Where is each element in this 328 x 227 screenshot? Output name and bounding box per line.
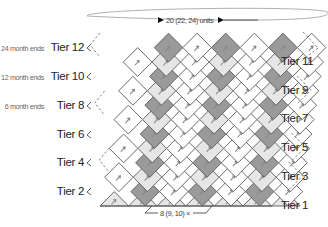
tier-label: Tier 2 — [57, 185, 84, 197]
left-dashed-edge — [99, 148, 109, 172]
tier-note: 24 month ends — [1, 44, 45, 53]
left-tier-tier-4: Tier 4 — [57, 148, 109, 172]
height-annotation: 8 (9, 10) × — [145, 206, 212, 218]
tier-pointer-icon — [87, 102, 91, 109]
height-leader-right — [193, 206, 212, 213]
height-label: 8 (9, 10) — [160, 209, 185, 218]
arrow-right-icon — [158, 17, 164, 23]
left-tier-tier-8: Tier 86 month ends — [5, 91, 105, 115]
left-dashed-edge — [90, 33, 100, 57]
tier-note: 6 month ends — [5, 102, 45, 111]
left-dashed-edge — [95, 91, 105, 115]
right-tier-tier-9: Tier 9 — [281, 84, 308, 96]
right-tier-tier-7: Tier 7 — [281, 112, 308, 124]
tier-pointer-icon — [87, 188, 91, 195]
width-label: 20 (22, 24) units — [166, 16, 214, 25]
left-tier-tier-2: Tier 2 — [57, 185, 91, 197]
tier-label: Tier 12 — [51, 41, 84, 53]
tier-pointer-icon — [87, 131, 91, 138]
right-tier-tier-1: Tier 1 — [281, 199, 308, 211]
tier-note: 12 month ends — [1, 73, 45, 82]
tier-label: Tier 4 — [57, 156, 85, 168]
tier-pointer-icon — [87, 73, 91, 80]
tier-label: Tier 10 — [51, 70, 84, 82]
tier-label: Tier 8 — [57, 99, 84, 111]
width-annotation: 20 (22, 24) units — [87, 8, 328, 25]
right-tier-tier-3: Tier 3 — [281, 170, 308, 182]
left-tier-labels: Tier 1224 month endsTier 1012 month ends… — [1, 33, 109, 197]
tier-label: Tier 6 — [57, 128, 84, 140]
left-tier-tier-12: Tier 1224 month ends — [1, 33, 100, 57]
tier-pointer-icon — [87, 159, 91, 166]
right-tier-tier-5: Tier 5 — [281, 141, 308, 153]
height-leader-left — [145, 206, 158, 213]
diamond-tile — [100, 192, 129, 206]
right-tier-tier-11: Tier 11 — [281, 55, 313, 67]
left-tier-tier-10: Tier 1012 month ends — [1, 70, 91, 82]
arrow-left-icon — [218, 17, 224, 23]
multiply-x-icon: × — [186, 209, 190, 218]
left-tier-tier-6: Tier 6 — [57, 128, 91, 140]
tier-diagram: 20 (22, 24) units 8 (9, 10) × Tier 1224 … — [0, 0, 328, 227]
